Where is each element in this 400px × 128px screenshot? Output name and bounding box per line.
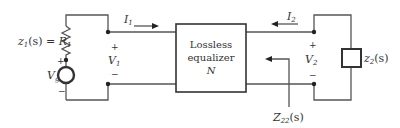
terminal-dot xyxy=(312,82,316,86)
i2-label: I2 xyxy=(286,10,296,24)
i2-arrow-icon xyxy=(271,21,278,27)
network-label-line1: Lossless xyxy=(190,39,232,50)
source-loop-wire xyxy=(66,15,108,32)
z22-label: Z22(s) xyxy=(272,111,304,125)
z22-probe-line xyxy=(272,59,289,107)
source-plus-sign: + xyxy=(57,56,65,66)
z22-arrow-icon xyxy=(265,56,272,62)
i1-label: I1 xyxy=(123,13,133,27)
load-impedance-box xyxy=(342,49,361,67)
terminal-dot xyxy=(106,30,110,34)
load-impedance-label: z2(s) xyxy=(363,52,389,66)
source-minus-sign: − xyxy=(58,86,66,96)
source-impedance-label: z1(s) = R1 xyxy=(17,35,71,49)
network-label-line2: equalizer xyxy=(187,52,234,63)
circuit-diagram: z1(s) = R1 + Vg − I1 + V1 − Lossless equ… xyxy=(0,0,400,128)
v1-minus-sign: − xyxy=(111,69,119,79)
v1-plus-sign: + xyxy=(111,42,119,52)
network-label-line3: N xyxy=(206,65,217,76)
i1-arrow-icon xyxy=(152,23,159,29)
v2-plus-sign: + xyxy=(309,40,317,50)
v2-minus-sign: − xyxy=(309,70,317,80)
voltage-source-icon xyxy=(58,67,74,83)
load-loop-wire xyxy=(314,15,351,49)
v1-label: V1 xyxy=(108,54,120,68)
terminal-dot xyxy=(312,30,316,34)
v2-label: V2 xyxy=(305,53,318,67)
terminal-dot xyxy=(106,82,110,86)
